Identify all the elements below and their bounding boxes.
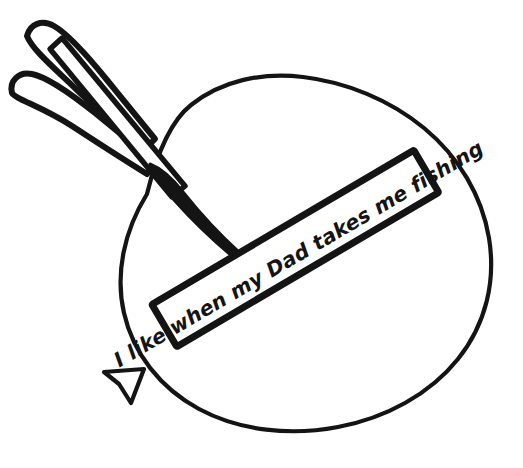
line-art-illustration: I like when my Dad takes me fishing: [0, 0, 523, 468]
artwork-canvas: I like when my Dad takes me fishing: [0, 0, 523, 468]
